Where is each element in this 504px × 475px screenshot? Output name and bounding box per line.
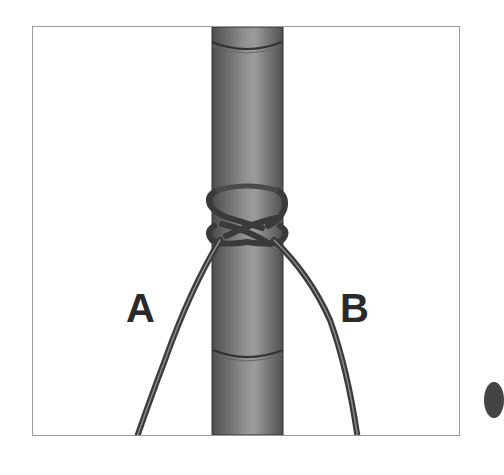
partial-circle-shape [484,382,504,418]
rope-end-label-a: A [126,288,155,328]
rope-end-label-b: B [340,288,369,328]
